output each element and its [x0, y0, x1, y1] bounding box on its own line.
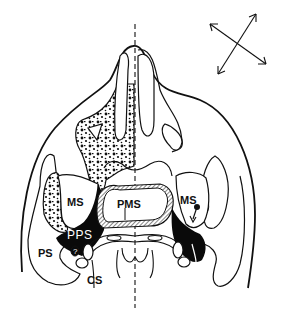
label-question-mark: ?: [73, 246, 78, 257]
label-pps: PPS: [67, 230, 93, 241]
diagram-canvas: MS MS PMS PPS PS CS ?: [0, 0, 283, 319]
label-ps: PS: [38, 248, 53, 259]
sinus-cross-section-drawing: [0, 0, 283, 319]
label-ms-right: MS: [180, 195, 197, 206]
orientation-arrows-icon: [210, 14, 266, 74]
label-ms-left: MS: [67, 197, 84, 208]
label-cs: CS: [87, 275, 102, 286]
label-pms: PMS: [117, 199, 141, 210]
